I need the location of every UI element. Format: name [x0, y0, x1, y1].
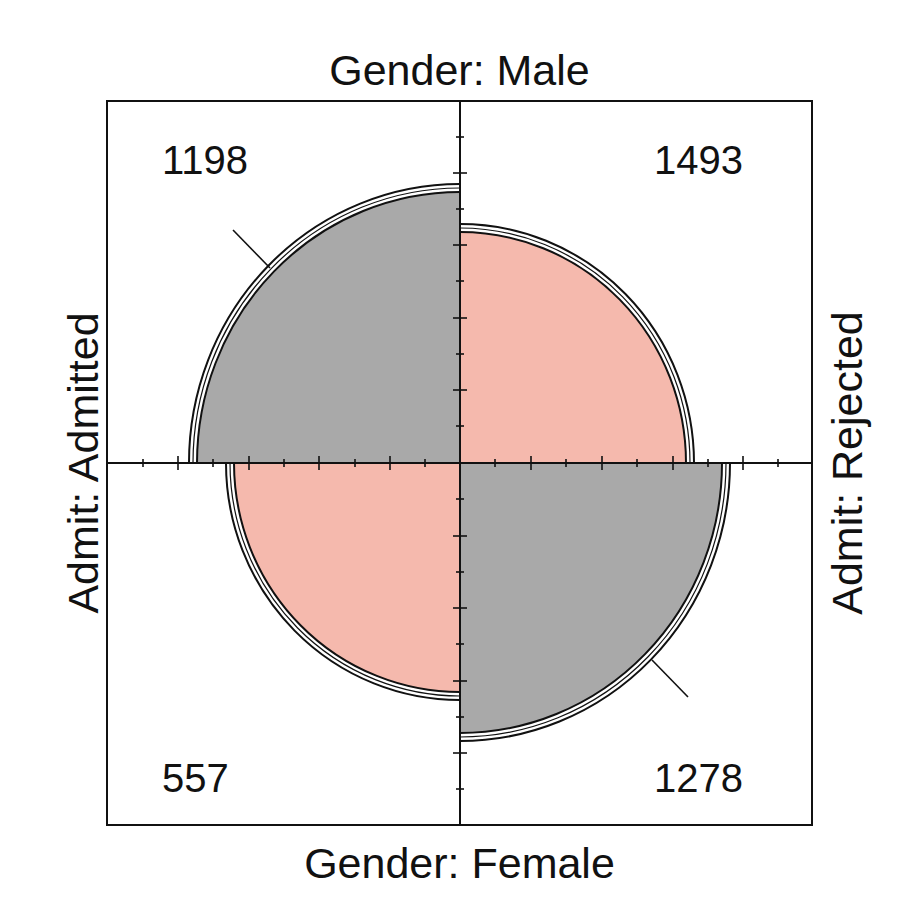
label-gender-male: Gender: Male	[0, 45, 919, 95]
quadrant-upper-right-fill	[460, 232, 686, 463]
label-admit-admitted: Admit: Admitted	[58, 263, 108, 663]
indicator-upper-left	[233, 230, 270, 268]
quadrant-lower-left-fill	[234, 463, 460, 692]
count-female-admitted: 557	[162, 755, 229, 801]
count-male-admitted: 1198	[162, 137, 248, 183]
label-admit-rejected: Admit: Rejected	[822, 263, 872, 663]
count-male-rejected: 1493	[654, 137, 743, 183]
label-gender-female: Gender: Female	[0, 838, 919, 888]
indicator-lower-right	[652, 660, 688, 697]
count-female-rejected: 1278	[654, 755, 743, 801]
fourfold-chart	[0, 0, 919, 924]
